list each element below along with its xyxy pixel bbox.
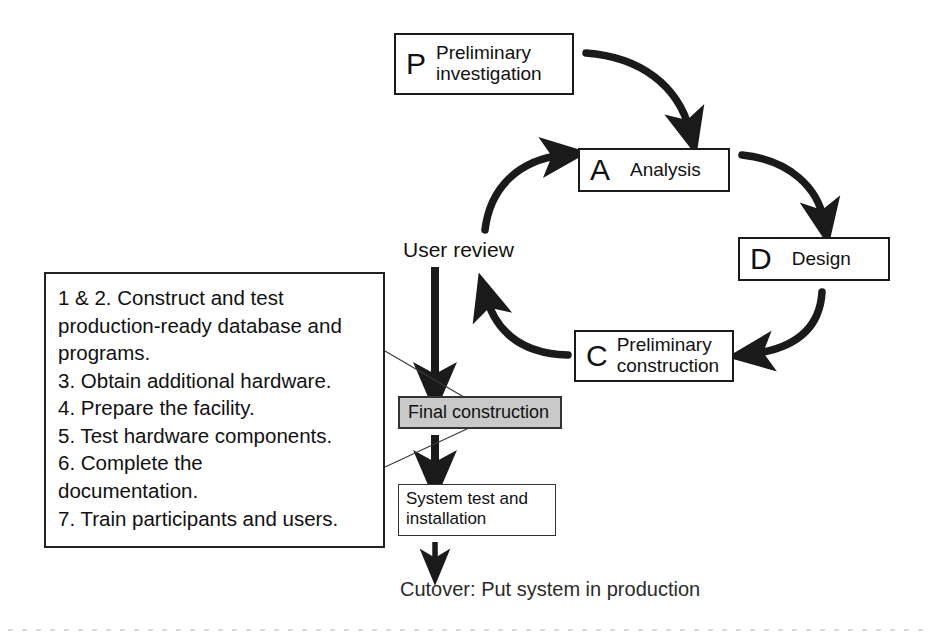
node-label-design: Design — [776, 249, 851, 270]
node-design[interactable]: D Design — [738, 237, 890, 281]
node-label-preliminary-construction: Preliminary construction — [612, 335, 719, 376]
tasklist-callout-box: 1 & 2. Construct and test production-rea… — [44, 272, 385, 548]
node-label-preliminary-investigation: Preliminary investigation — [430, 43, 542, 84]
node-label-line1: Preliminary — [436, 42, 531, 63]
task-line: 3. Obtain additional hardware. — [58, 367, 377, 395]
node-letter-d: D — [740, 244, 776, 274]
node-label-final-construction: Final construction — [400, 403, 549, 422]
task-line: 1 & 2. Construct and test — [58, 284, 377, 312]
node-preliminary-construction[interactable]: C Preliminary construction — [574, 330, 734, 382]
node-preliminary-investigation[interactable]: P Preliminary investigation — [394, 33, 574, 95]
arrow-analysis-to-design — [742, 155, 824, 221]
node-label-line1: Preliminary — [617, 334, 712, 355]
task-line: production-ready database and — [58, 312, 377, 340]
leader-line-tasklist-bottom — [385, 428, 469, 467]
node-letter-p: P — [396, 49, 430, 79]
task-line: programs. — [58, 339, 377, 367]
diagram-canvas: P Preliminary investigation A Analysis D… — [0, 0, 934, 641]
node-label-line2: installation — [406, 509, 486, 528]
node-letter-a: A — [580, 155, 614, 185]
task-line: 7. Train participants and users. — [58, 505, 377, 533]
node-label-system-test: System test and installation — [399, 485, 528, 529]
task-line: 4. Prepare the facility. — [58, 394, 377, 422]
task-line: 5. Test hardware components. — [58, 422, 377, 450]
node-label-analysis: Analysis — [614, 160, 701, 181]
node-analysis[interactable]: A Analysis — [578, 148, 730, 192]
arrow-preliminary-investigation-to-analysis — [586, 53, 690, 131]
node-system-test[interactable]: System test and installation — [398, 484, 556, 536]
node-label-line2: construction — [617, 355, 719, 376]
arrow-user-review-to-analysis — [485, 155, 563, 230]
leader-line-tasklist-top — [385, 351, 469, 400]
node-final-construction[interactable]: Final construction — [398, 396, 562, 429]
arrow-design-to-preliminary-construction — [752, 292, 822, 354]
node-letter-c: C — [576, 341, 612, 371]
node-label-line1: System test and — [406, 489, 528, 508]
label-cutover: Cutover: Put system in production — [400, 578, 700, 601]
label-user-review: User review — [403, 238, 514, 262]
task-line: 6. Complete the — [58, 449, 377, 477]
task-line: documentation. — [58, 477, 377, 505]
arrow-preliminary-construction-to-user-review — [486, 297, 568, 355]
node-label-line2: investigation — [436, 63, 542, 84]
